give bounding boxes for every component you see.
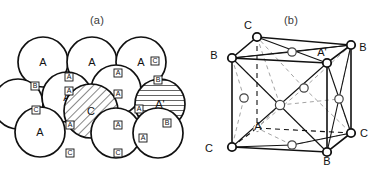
site-label-a-5-text: A [137,105,142,112]
site-label-c-4-text: C [152,57,157,64]
sphere-group: AAAAA'CA [0,37,185,158]
cube-corner-b-front: B [323,155,330,167]
site-label-a-7: A [114,121,122,129]
site-label-c-2-text: C [67,149,72,156]
face-centre-a-prime: A' [317,46,326,58]
site-label-b-2: B [154,76,162,84]
site-label-a-7-text: A [116,121,121,128]
atom-corner-back-top-right [347,41,355,49]
site-label-b-2-text: B [156,76,161,83]
atom-face-right [335,95,343,103]
atom-face-back [300,84,308,92]
sphere-a-top-left-label: A [39,56,47,68]
cube-corner-c-bottom: C [205,142,213,154]
site-label-a-3: A [65,87,73,95]
site-label-c-1: C [32,106,40,114]
site-label-b-1-text: B [33,82,38,89]
crystal-structure-figure: (a) AAAAA'CA AAAAAAAABBBCCCC (b) [0,0,388,183]
site-label-a-1-text: A [67,73,72,80]
panel-b-drawing: CBBCBCA'A [194,0,388,183]
site-label-a-8: A [139,134,147,142]
site-label-b-3-text: B [165,119,170,126]
face-centre-a: A [254,120,262,132]
site-label-c-1-text: C [33,106,38,113]
site-label-c-3: C [114,149,122,157]
site-label-c-4: C [151,57,159,65]
site-label-b-1: B [31,82,39,90]
site-label-a-8-text: A [141,134,146,141]
site-label-a-4-text: A [116,90,121,97]
cube-corner-b-right: B [359,41,366,53]
atom-face-front [275,100,284,109]
site-label-a-6-text: A [68,121,73,128]
site-label-b-3: B [163,119,171,127]
sphere-a-top-right-label: A [137,56,145,68]
panel-a-close-packed-plane: (a) AAAAA'CA AAAAAAAABBBCCCC [0,0,194,183]
sphere-c-center-label: C [87,105,95,117]
atom-face-bottom [288,141,296,149]
atom-corner-back-bot-right [347,129,355,137]
atom-corner-front-top-right [323,59,331,67]
site-label-a-2: A [114,69,122,77]
site-label-a-2-text: A [116,69,121,76]
sphere-a-bottom-left: A [15,107,65,157]
panel-a-drawing: AAAAA'CA AAAAAAAABBBCCCC [0,0,194,183]
site-label-c-3-text: C [115,149,120,156]
cube-corner-b-left: B [210,49,217,61]
cube-corner-c-top: C [244,19,252,31]
sphere-a-bottom-left-label: A [36,126,44,138]
site-label-a-5: A [135,105,143,113]
site-label-a-1: A [65,73,73,81]
panel-b-fcc-unit-cell: (b) [194,0,388,183]
site-label-a-6: A [66,121,74,129]
atom-face-top [288,48,296,56]
sphere-a-top-mid-label: A [88,56,96,68]
atom-corner-front-top-left [228,54,236,62]
site-label-a-3-text: A [67,87,72,94]
sphere-bottom-right [133,108,183,158]
atom-face-left [240,94,248,102]
site-label-a-4: A [114,90,122,98]
site-label-c-2: C [66,149,74,157]
cube-corner-c-right: C [360,127,368,139]
atom-corner-front-bot-left [228,143,236,151]
atom-corner-back-top-left [253,33,261,41]
